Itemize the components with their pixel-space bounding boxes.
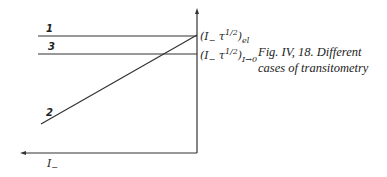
transitometry-diagram — [0, 0, 387, 177]
x-axis-arrow-icon — [20, 151, 26, 155]
level-el-tau: τ — [215, 30, 225, 43]
y-axis-arrow-icon — [195, 8, 199, 14]
level-i0-subscript: I→0 — [242, 55, 257, 64]
x-axis-label-sub: − — [51, 163, 58, 172]
level-i0-label: (I− τ1/2)I→0 — [200, 48, 257, 64]
curve-2-label: 2 — [46, 108, 53, 118]
curve-1-label: 1 — [46, 24, 53, 34]
level-el-exp: 1/2 — [225, 28, 238, 37]
curve-3-label: 3 — [48, 42, 55, 52]
level-el-base: (I — [200, 30, 209, 43]
level-i0-tau: τ — [215, 49, 225, 62]
level-el-label: (I− τ1/2)el — [200, 29, 249, 45]
curve-2-line — [41, 35, 197, 124]
level-i0-base: (I — [200, 49, 209, 62]
x-axis-label: I− — [47, 158, 58, 172]
caption-line-2: cases of transitometry — [258, 60, 368, 76]
level-i0-exp: 1/2 — [225, 47, 238, 56]
figure-caption: Fig. IV, 18. Different cases of transito… — [258, 44, 368, 76]
level-el-subscript: el — [242, 36, 249, 45]
caption-line-1: Fig. IV, 18. Different — [258, 44, 368, 60]
